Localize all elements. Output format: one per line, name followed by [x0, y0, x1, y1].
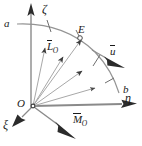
figure-canvas — [0, 0, 142, 146]
point-label-origin: O — [17, 98, 25, 109]
vector-label-M-O: MO — [73, 114, 88, 125]
angular-momentum-ray-fan — [33, 40, 95, 106]
axis-label-eta: η — [125, 92, 131, 104]
vector-label-M-O-symbol: M — [73, 114, 82, 125]
vector-label-M-O-subscript: O — [82, 119, 87, 128]
vector-label-L-O: LO — [47, 41, 59, 52]
ray-4 — [33, 71, 82, 106]
origin-marker — [31, 104, 35, 108]
zeta-axis — [27, 3, 34, 108]
xi-axis-arrowhead — [12, 115, 26, 128]
vector-label-u: u — [110, 46, 116, 57]
point-E-marker — [78, 36, 83, 41]
axis-label-zeta: ζ — [42, 3, 47, 15]
moment-vector-MO — [34, 107, 76, 139]
point-label-a: a — [4, 18, 10, 29]
axis-label-xi: ξ — [3, 119, 8, 131]
vector-label-u-symbol: u — [110, 46, 116, 57]
xi-axis — [12, 106, 33, 127]
velocity-vector-arrowhead — [104, 57, 125, 69]
vector-mechanics-figure: ζ a E b η ξ O LO u MO — [0, 0, 142, 146]
vector-label-L-O-subscript: O — [53, 46, 58, 55]
point-label-E: E — [78, 24, 85, 35]
